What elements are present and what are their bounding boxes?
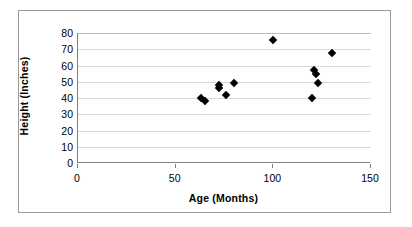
gridline	[78, 131, 371, 132]
data-point-marker	[230, 79, 238, 87]
plot-area	[77, 33, 370, 163]
x-tick-label: 0	[57, 172, 97, 184]
x-tick-label: 100	[252, 172, 292, 184]
y-tick-label: 50	[47, 77, 73, 87]
x-tick-mark	[272, 164, 273, 168]
y-tick-label: 0	[47, 158, 73, 168]
data-point-marker	[269, 35, 277, 43]
x-tick-mark	[77, 164, 78, 168]
x-tick-label: 50	[155, 172, 195, 184]
y-axis-tick-labels: 01020304050607080	[45, 0, 73, 227]
data-point-marker	[314, 79, 322, 87]
x-axis-tick-labels: 050100150	[77, 164, 372, 188]
chart-container: 01020304050607080 050100150 Age (Months)…	[0, 0, 412, 227]
y-tick-label: 40	[47, 93, 73, 103]
gridline	[78, 49, 371, 50]
gridline	[78, 114, 371, 115]
y-tick-label: 70	[47, 44, 73, 54]
y-tick-label: 10	[47, 142, 73, 152]
y-tick-label: 80	[47, 28, 73, 38]
y-tick-label: 30	[47, 109, 73, 119]
gridline	[78, 147, 371, 148]
gridline	[78, 66, 371, 67]
data-point-marker	[312, 69, 320, 77]
gridline	[78, 33, 371, 34]
gridline	[78, 82, 371, 83]
y-tick-label: 20	[47, 126, 73, 136]
x-tick-label: 150	[350, 172, 390, 184]
x-tick-mark	[175, 164, 176, 168]
data-point-marker	[308, 94, 316, 102]
y-tick-label: 60	[47, 61, 73, 71]
y-axis-title: Height (Inches)	[18, 31, 30, 161]
x-axis-title: Age (Months)	[77, 192, 370, 204]
x-tick-mark	[370, 164, 371, 168]
